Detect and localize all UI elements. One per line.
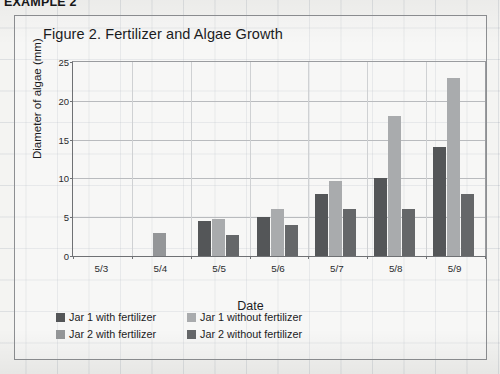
legend-label: Jar 2 with fertilizer <box>69 328 156 340</box>
x-tick-mark <box>250 256 251 259</box>
bar <box>388 116 401 256</box>
figure-container: Figure 2. Fertilizer and Algae Growth Di… <box>14 15 487 360</box>
x-tick-mark <box>191 256 192 259</box>
x-tick-mark <box>73 256 74 259</box>
y-tick-mark <box>70 62 73 63</box>
legend-item-jar2-with-fertilizer: Jar 2 with fertilizer <box>56 328 187 340</box>
legend-swatch-icon <box>187 330 196 339</box>
bar <box>315 194 328 256</box>
x-gridline <box>426 62 427 256</box>
bar <box>226 235 239 256</box>
y-gridline <box>73 178 485 179</box>
bar <box>461 194 474 256</box>
x-tick-mark <box>485 256 486 259</box>
legend-row: Jar 1 with fertilizer Jar 1 without fert… <box>56 311 356 323</box>
bar <box>285 225 298 256</box>
legend-label: Jar 1 with fertilizer <box>69 311 156 323</box>
x-gridline <box>367 62 368 256</box>
x-tick-label: 5/8 <box>389 263 403 274</box>
bar <box>447 78 460 256</box>
bar <box>198 221 211 256</box>
plot-area: 0510152025 <box>72 61 486 257</box>
y-gridline <box>73 101 485 102</box>
y-tick-mark <box>70 217 73 218</box>
legend-label: Jar 1 without fertilizer <box>200 311 302 323</box>
x-tick-mark <box>308 256 309 259</box>
x-tick-label: 5/5 <box>212 263 226 274</box>
legend-swatch-icon <box>56 330 65 339</box>
bar <box>271 209 284 256</box>
bar <box>343 209 356 256</box>
y-tick-mark <box>70 140 73 141</box>
chart-legend: Jar 1 with fertilizer Jar 1 without fert… <box>56 311 356 345</box>
y-tick-label: 10 <box>58 173 69 184</box>
legend-row: Jar 2 with fertilizer Jar 2 without fert… <box>56 328 356 340</box>
example-header: EXAMPLE 2 <box>4 0 77 9</box>
x-tick-label: 5/7 <box>330 263 344 274</box>
y-gridline <box>73 140 485 141</box>
y-tick-label: 15 <box>58 134 69 145</box>
x-tick-label: 5/4 <box>153 263 167 274</box>
bar <box>402 209 415 256</box>
bar <box>329 181 342 256</box>
bar <box>257 217 270 256</box>
x-tick-mark <box>367 256 368 259</box>
legend-swatch-icon <box>56 313 65 322</box>
x-tick-mark <box>426 256 427 259</box>
y-tick-mark <box>70 101 73 102</box>
bar <box>433 147 446 256</box>
chart-title: Figure 2. Fertilizer and Algae Growth <box>43 26 283 42</box>
legend-label: Jar 2 without fertilizer <box>200 328 302 340</box>
x-gridline <box>250 62 251 256</box>
x-gridline <box>308 62 309 256</box>
y-axis-label: Diameter of algae (mm) <box>31 38 43 159</box>
y-tick-label: 20 <box>58 95 69 106</box>
x-tick-label: 5/9 <box>448 263 462 274</box>
x-gridline <box>132 62 133 256</box>
legend-item-jar1-with-fertilizer: Jar 1 with fertilizer <box>56 311 187 323</box>
legend-swatch-icon <box>187 313 196 322</box>
y-tick-label: 25 <box>58 57 69 68</box>
legend-item-jar2-without-fertilizer: Jar 2 without fertilizer <box>187 328 302 340</box>
legend-item-jar1-without-fertilizer: Jar 1 without fertilizer <box>187 311 302 323</box>
x-tick-mark <box>132 256 133 259</box>
y-tick-mark <box>70 178 73 179</box>
y-tick-label: 5 <box>64 212 69 223</box>
x-gridline <box>191 62 192 256</box>
y-tick-label: 0 <box>64 251 69 262</box>
bar <box>212 219 225 256</box>
x-tick-label: 5/6 <box>271 263 285 274</box>
bar <box>374 178 387 256</box>
bar <box>153 233 166 256</box>
x-tick-label: 5/3 <box>95 263 109 274</box>
